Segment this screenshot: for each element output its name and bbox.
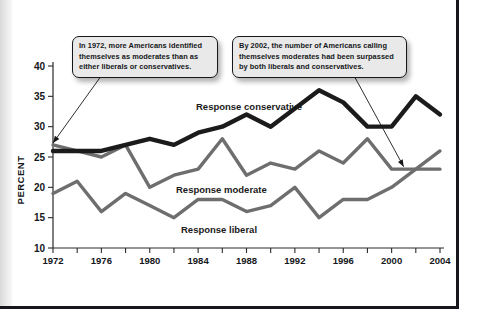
annotation-callout-2002-text: By 2002, the number of Americans calling… [239, 41, 400, 73]
series-label-liberal: Response liberal [181, 224, 257, 235]
svg-text:1996: 1996 [333, 255, 354, 266]
annotation-callout-1972-text: In 1972, more Americans identified thems… [79, 41, 211, 73]
svg-text:1984: 1984 [188, 255, 210, 266]
svg-text:2004: 2004 [429, 255, 451, 266]
callout-1-leader [53, 72, 104, 143]
svg-text:1992: 1992 [284, 255, 305, 266]
figure-page: 10152025303540 1972197619801984198819921… [0, 0, 479, 316]
svg-text:1988: 1988 [236, 255, 257, 266]
svg-text:40: 40 [34, 61, 46, 72]
series-label-moderate: Response moderate [176, 184, 267, 195]
svg-text:25: 25 [34, 152, 46, 163]
x-axis-tick-labels: 197219761980198419881992199620002004 [42, 255, 451, 266]
series-line-conservative [53, 90, 440, 151]
annotation-callout-2002: By 2002, the number of Americans calling… [232, 36, 407, 78]
svg-text:30: 30 [34, 121, 46, 132]
series-label-conservative: Response conservative [196, 101, 302, 112]
svg-text:1972: 1972 [42, 255, 63, 266]
svg-text:20: 20 [34, 182, 46, 193]
annotation-callout-1972: In 1972, more Americans identified thems… [72, 36, 218, 78]
svg-text:1980: 1980 [139, 255, 160, 266]
svg-text:10: 10 [34, 243, 46, 254]
y-axis-ticks [48, 66, 53, 248]
svg-text:15: 15 [34, 212, 46, 223]
chart-axes [53, 62, 444, 248]
svg-text:2000: 2000 [381, 255, 402, 266]
svg-text:1976: 1976 [91, 255, 112, 266]
x-axis-ticks [53, 248, 440, 253]
y-axis-title: PERCENT [15, 156, 26, 205]
svg-text:35: 35 [34, 91, 46, 102]
series-line-moderate [53, 139, 440, 188]
y-axis-tick-labels: 10152025303540 [34, 61, 46, 254]
